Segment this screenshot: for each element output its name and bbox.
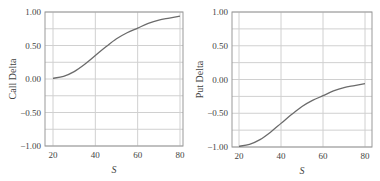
x-tick-label: 80 (361, 151, 371, 161)
y-tick-label: −0.50 (207, 108, 228, 118)
x-axis-label: S (300, 165, 305, 176)
y-tick-label: −1.00 (207, 142, 228, 152)
y-tick-label: 0.00 (212, 75, 228, 85)
x-axis-label: S (112, 164, 117, 175)
y-tick-label: 0.50 (25, 41, 41, 51)
x-tick-label: 20 (49, 150, 59, 160)
delta-charts: 1.000.500.00−0.50−1.0020406080SCall Delt… (0, 0, 380, 181)
chart-panel-put: 1.000.500.00−0.50−1.0020406080SPut Delta (194, 7, 372, 176)
x-tick-label: 20 (235, 151, 245, 161)
chart-panel-call: 1.000.500.00−0.50−1.0020406080SCall Delt… (7, 7, 185, 175)
x-tick-label: 60 (133, 150, 143, 160)
y-tick-label: 0.00 (25, 74, 41, 84)
x-tick-label: 40 (277, 151, 287, 161)
y-tick-label: 1.00 (25, 7, 41, 17)
y-tick-label: 0.50 (212, 41, 228, 51)
y-axis-label: Call Delta (7, 58, 18, 99)
x-tick-label: 80 (176, 150, 186, 160)
series-line (53, 16, 180, 78)
y-tick-label: −1.00 (20, 141, 41, 151)
y-tick-label: −0.50 (20, 108, 41, 118)
series-line (239, 84, 365, 147)
x-tick-label: 40 (91, 150, 101, 160)
y-tick-label: 1.00 (212, 7, 228, 17)
y-axis-label: Put Delta (194, 60, 205, 98)
x-tick-label: 60 (319, 151, 329, 161)
